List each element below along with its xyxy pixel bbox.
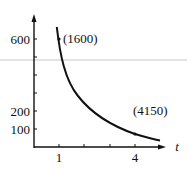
x-axis-label: t bbox=[175, 139, 179, 154]
data-point-1600 bbox=[57, 37, 60, 40]
y-axis-arrow-icon bbox=[32, 14, 37, 22]
annotation-4150: (4150) bbox=[133, 103, 168, 118]
data-point-4150 bbox=[133, 132, 136, 135]
x-tick-label-4: 4 bbox=[132, 150, 139, 165]
x-tick-label-1: 1 bbox=[56, 150, 63, 165]
chart: 600 200 100 1 4 t (1600) (4150) bbox=[0, 0, 187, 169]
y-tick-label-200: 200 bbox=[11, 104, 31, 119]
y-tick-label-100: 100 bbox=[11, 122, 31, 137]
annotation-1600: (1600) bbox=[63, 31, 98, 46]
x-axis-arrow-icon bbox=[158, 145, 166, 150]
y-tick-label-600: 600 bbox=[11, 32, 31, 47]
